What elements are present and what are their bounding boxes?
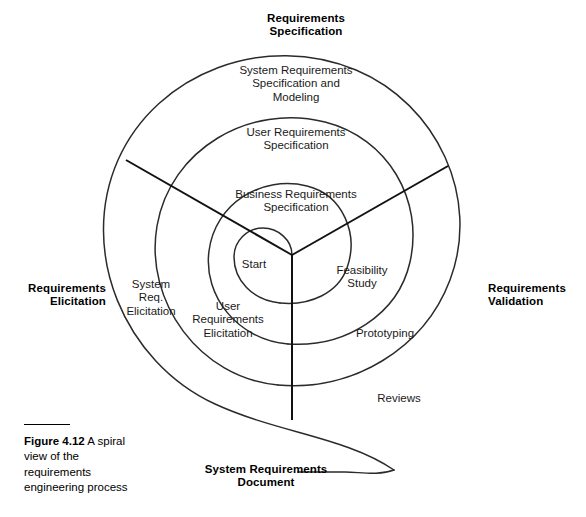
- ring-label-user-requirements-elicitation: User Requirements Elicitation: [182, 300, 274, 340]
- heading-requirements-specification: Requirements Specification: [226, 12, 386, 39]
- heading-requirements-elicitation: Requirements Elicitation: [8, 282, 106, 309]
- label-start: Start: [218, 258, 290, 271]
- heading-requirements-validation: Requirements Validation: [488, 282, 582, 309]
- ring-label-prototyping: Prototyping: [344, 327, 426, 340]
- ring-label-system-requirements-specification-and-modeling: System Requirements Specification and Mo…: [222, 64, 370, 104]
- heading-system-requirements-document: System Requirements Document: [186, 463, 346, 490]
- caption-text: Figure 4.12 A spiral view of the require…: [24, 434, 142, 495]
- ring-label-user-requirements-specification: User Requirements Specification: [222, 126, 370, 153]
- caption-rule: [24, 424, 70, 425]
- spiral-diagram-figure: Requirements Specification Requirements …: [0, 0, 586, 517]
- figure-number: Figure 4.12: [24, 435, 85, 447]
- ring-label-business-requirements-specification: Business Requirements Specification: [216, 188, 376, 215]
- ring-label-feasibility-study: Feasibility Study: [326, 264, 398, 291]
- ring-label-system-req-elicitation: System Req. Elicitation: [112, 278, 190, 318]
- figure-caption: Figure 4.12 A spiral view of the require…: [24, 424, 142, 495]
- ring-label-reviews: Reviews: [368, 392, 430, 405]
